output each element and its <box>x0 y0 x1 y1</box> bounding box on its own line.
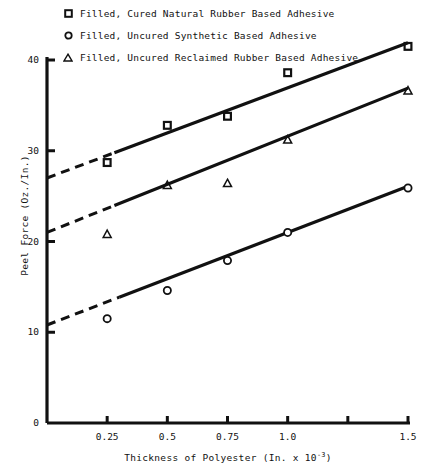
x-tick-label: 0.5 <box>147 431 187 442</box>
y-tick-label: 10 <box>13 326 39 337</box>
plot-area <box>0 0 427 473</box>
circle-marker-icon <box>60 31 76 40</box>
y-axis-label: Peel Force (Oz./In.) <box>19 136 30 296</box>
y-tick-label: 0 <box>13 417 39 428</box>
legend-label: Filled, Cured Natural Rubber Based Adhes… <box>76 8 335 19</box>
x-tick-label: 1.5 <box>388 431 427 442</box>
x-tick-label: 1.0 <box>268 431 308 442</box>
data-point-square <box>405 43 412 50</box>
legend: Filled, Cured Natural Rubber Based Adhes… <box>60 2 390 68</box>
data-series <box>47 43 412 325</box>
data-point-circle <box>284 229 291 236</box>
triangle-marker-icon <box>60 53 76 62</box>
data-point-circle <box>404 184 411 191</box>
data-point-square <box>104 159 111 166</box>
y-tick-label: 30 <box>13 145 39 156</box>
data-point-square <box>284 69 291 76</box>
square-marker-icon <box>60 9 76 18</box>
x-axis-label: Thickness of Polyester (In. x 10-3) <box>47 451 409 463</box>
y-tick-label: 40 <box>13 54 39 65</box>
data-point-circle <box>104 315 111 322</box>
peel-force-chart: Filled, Cured Natural Rubber Based Adhes… <box>0 0 427 473</box>
y-tick-label: 20 <box>13 236 39 247</box>
legend-item-uncured-synthetic: Filled, Uncured Synthetic Based Adhesive <box>60 24 390 46</box>
legend-item-uncured-reclaimed-rubber: Filled, Uncured Reclaimed Rubber Based A… <box>60 46 390 68</box>
data-point-square <box>164 122 171 129</box>
data-point-circle <box>224 257 231 264</box>
data-point-triangle <box>224 179 232 186</box>
x-axis-label-exponent: -3 <box>317 451 326 459</box>
data-point-triangle <box>103 230 111 237</box>
legend-item-cured-natural-rubber: Filled, Cured Natural Rubber Based Adhes… <box>60 2 390 24</box>
x-tick-label: 0.25 <box>87 431 127 442</box>
data-point-circle <box>164 287 171 294</box>
x-tick-label: 0.75 <box>208 431 248 442</box>
legend-label: Filled, Uncured Synthetic Based Adhesive <box>76 30 317 41</box>
data-point-square <box>224 113 231 120</box>
x-axis-label-base: Thickness of Polyester (In. x 10 <box>124 452 317 463</box>
legend-label: Filled, Uncured Reclaimed Rubber Based A… <box>76 52 358 63</box>
x-axis-label-tail: ) <box>326 452 332 463</box>
